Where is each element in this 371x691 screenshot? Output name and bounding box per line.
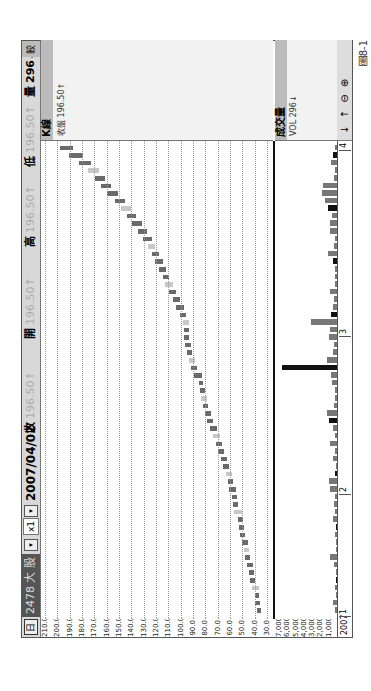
candlestick <box>132 221 142 226</box>
volume-legend-text: VOL 296↓ <box>289 95 298 136</box>
volume-tab[interactable]: 成交量 <box>275 40 287 140</box>
volume-bar <box>328 205 337 211</box>
gridline <box>168 141 169 619</box>
volume-bar <box>327 410 337 416</box>
gridline <box>107 141 108 619</box>
volume-bar <box>329 334 337 340</box>
candlestick <box>194 373 203 378</box>
price-legend-panel: K線 收盤 196.50↑ <box>41 40 273 141</box>
gridline <box>193 141 194 619</box>
candlestick <box>233 502 238 507</box>
scroll-down-icon[interactable]: ↓ <box>339 126 350 134</box>
month-label: 2 <box>339 487 351 495</box>
volume-bar <box>329 418 337 424</box>
candlestick <box>107 191 118 196</box>
volume-bar <box>330 486 337 492</box>
price-tick: 60.0 <box>226 620 234 637</box>
candlestick <box>255 601 260 606</box>
gridline <box>156 141 157 619</box>
volume-bar <box>330 220 337 226</box>
price-tick: 80.0 <box>201 620 209 637</box>
volume-tick: 1,000 <box>325 620 333 637</box>
candlestick <box>121 206 131 211</box>
price-tick: 160.0 <box>103 620 111 637</box>
candlestick <box>200 388 205 393</box>
candlestick <box>257 608 262 613</box>
price-tick: 120.0 <box>152 620 160 637</box>
volume-bar <box>329 478 337 484</box>
volume-bar <box>282 365 337 371</box>
price-tick: 210.0 <box>41 620 49 637</box>
candlestick <box>60 146 73 151</box>
volume-bar <box>330 289 337 295</box>
gridline <box>181 141 182 619</box>
chart-window: 日 2478 大 股 ▾ x1 ▾ 2007/04/02 收 196.50↑ 開… <box>21 40 353 638</box>
quote-date: 2007/04/02 <box>22 425 40 501</box>
price-legend-text: 收盤 196.50↑ <box>55 83 66 136</box>
kline-tab[interactable]: K線 <box>41 40 53 140</box>
price-plot[interactable] <box>41 141 275 619</box>
zoom-in-icon[interactable]: ⊕ <box>339 79 350 87</box>
price-tick: 70.0 <box>214 620 222 637</box>
candlestick <box>207 419 213 424</box>
gridline <box>82 141 83 619</box>
gridline <box>255 141 256 619</box>
candlestick <box>223 464 229 469</box>
gridline <box>70 141 71 619</box>
candlestick <box>218 449 224 454</box>
volume-tick: 7,000 <box>275 620 283 637</box>
volume-bar <box>330 441 337 447</box>
gridline <box>57 141 58 619</box>
price-tick: 30.0 <box>263 620 271 637</box>
candlestick <box>159 267 166 272</box>
quote-header: 日 2478 大 股 ▾ x1 ▾ 2007/04/02 收 196.50↑ 開… <box>22 41 41 637</box>
month-label: 1 <box>339 609 351 617</box>
volume-tick: 5,000 <box>292 620 300 637</box>
volume-tick: 2,000 <box>316 620 324 637</box>
candlestick <box>148 244 155 249</box>
stock-dropdown-icon[interactable]: ▾ <box>24 539 38 551</box>
chart-toolbar: ↓ ↑ ⊖ ⊕ <box>337 40 352 141</box>
candlestick <box>244 548 249 553</box>
high-label: 高 <box>22 236 40 247</box>
stock-code: 2478 <box>24 586 37 614</box>
candlestick <box>221 457 227 462</box>
price-tick: 40.0 <box>251 620 259 637</box>
high-value: 196.50↑ <box>22 185 40 233</box>
multiplier-dropdown-icon[interactable]: ▾ <box>24 505 38 517</box>
volume-bar <box>330 327 337 333</box>
zoom-out-icon[interactable]: ⊖ <box>339 94 350 102</box>
figure-caption: 圖8-1 <box>356 40 370 66</box>
price-tick: 90.0 <box>189 620 197 637</box>
volume-y-axis: 7,0006,0005,0004,0003,0002,0001,000 <box>275 620 337 637</box>
price-tick: 180.0 <box>78 620 86 637</box>
gridline <box>131 141 132 619</box>
volume-bar <box>311 319 337 325</box>
candlestick <box>199 381 204 386</box>
gridline <box>45 141 46 619</box>
price-tick: 200.0 <box>53 620 61 637</box>
low-label: 低 <box>22 156 40 167</box>
stock-name: 大 股 <box>24 557 37 583</box>
gridline <box>205 141 206 619</box>
candlestick <box>184 328 189 333</box>
scroll-up-icon[interactable]: ↑ <box>339 110 350 118</box>
stock-selector[interactable]: 2478 大 股 <box>22 554 40 617</box>
volume-bar <box>330 228 337 234</box>
candlestick <box>69 153 83 158</box>
candlestick <box>247 563 253 568</box>
gridline <box>267 141 268 619</box>
volume-bar <box>322 190 337 196</box>
month-label: 3 <box>339 329 351 337</box>
compare-button[interactable]: 較 <box>22 41 40 57</box>
gridline <box>144 141 145 619</box>
calendar-icon[interactable]: 日 <box>24 619 38 635</box>
volume-bar <box>325 198 337 204</box>
close-label: 收 <box>22 422 40 433</box>
gridline <box>119 141 120 619</box>
candlestick <box>138 229 147 234</box>
multiplier-select[interactable]: x1 <box>23 518 39 535</box>
candlestick <box>210 426 217 431</box>
volume-plot[interactable] <box>275 141 337 619</box>
candlestick <box>79 161 91 166</box>
